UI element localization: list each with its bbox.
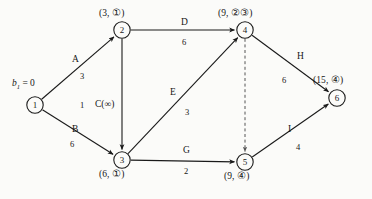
edge-cost-d: 6 <box>182 38 186 47</box>
edge-cost-h: 6 <box>282 76 286 85</box>
node-4[interactable]: 4 <box>237 22 253 38</box>
node-number-5: 5 <box>243 157 248 167</box>
node-number-2: 2 <box>120 25 125 35</box>
node-number-1: 1 <box>33 100 38 110</box>
edge-name-b: B <box>72 125 78 135</box>
edge-name-c: C(∞) <box>95 100 114 110</box>
edge-cost-e: 3 <box>185 108 189 117</box>
edge-cost-g: 2 <box>184 167 188 176</box>
edge-cost-c: 1 <box>80 101 84 110</box>
edge-name-a: A <box>72 55 79 65</box>
node-5[interactable]: 5 <box>237 154 253 170</box>
edge-name-i: I <box>288 125 291 135</box>
edge-a <box>42 37 114 99</box>
edge-name-h: H <box>297 52 304 62</box>
edge-name-e: E <box>170 88 176 98</box>
node-number-6: 6 <box>335 93 340 103</box>
network-diagram-canvas: 123456 b1 = 0 A3B6C(∞)1D6E3G2H6I4(3, ①)(… <box>0 0 372 199</box>
edge-name-d: D <box>181 18 188 28</box>
edges-layer <box>42 30 329 162</box>
node-number-3: 3 <box>120 155 125 165</box>
source-supply-eq: = 0 <box>20 78 35 88</box>
edge-cost-i: 4 <box>296 143 300 152</box>
source-supply-label: b1 = 0 <box>12 79 35 90</box>
edge-e <box>128 38 238 154</box>
edge-name-g: G <box>183 146 190 156</box>
edge-cost-a: 3 <box>80 72 84 81</box>
node-number-4: 4 <box>243 25 248 35</box>
node-6[interactable]: 6 <box>329 90 345 106</box>
node-label-2: (3, ①) <box>99 9 124 19</box>
node-3[interactable]: 3 <box>114 152 130 168</box>
node-label-6: (15, ④) <box>313 76 343 86</box>
edge-g <box>131 160 235 162</box>
node-2[interactable]: 2 <box>114 22 130 38</box>
node-label-4: (9, ②③) <box>218 9 253 19</box>
node-label-5: (9, ④) <box>224 172 249 182</box>
node-1[interactable]: 1 <box>27 97 43 113</box>
node-label-3: (6, ①) <box>99 170 124 180</box>
edge-cost-b: 6 <box>70 140 74 149</box>
